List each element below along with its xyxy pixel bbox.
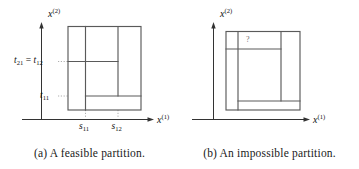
panel-impossible-partition: x(2) x(1) ? (b) An impossible partition. <box>180 0 359 169</box>
question-mark-marker: ? <box>246 36 250 44</box>
panel-feasible-partition: x(2) x(1) t21=t12 t11 s11 s12 (a) A feas… <box>0 0 179 169</box>
y-axis-label: x(2) <box>48 8 60 19</box>
x-axis-label: x(1) <box>157 114 169 125</box>
y-tick-label-t21-eq-t12: t21=t12 <box>14 56 43 66</box>
figure-container: x(2) x(1) t21=t12 t11 s11 s12 (a) A feas… <box>0 0 359 169</box>
panel-b-drawing <box>180 0 359 169</box>
panel-b-caption: (b) An impossible partition. <box>180 147 359 159</box>
x-tick-label-s12: s12 <box>112 122 122 132</box>
partition-cells <box>68 27 141 111</box>
y-tick-label-t11: t11 <box>40 91 49 101</box>
partition-cells <box>226 32 300 111</box>
y-axis <box>39 22 43 120</box>
panel-a-drawing <box>0 0 179 169</box>
y-axis-label: x(2) <box>220 8 232 19</box>
y-axis <box>211 22 215 120</box>
panel-a-caption: (a) A feasible partition. <box>0 147 179 159</box>
x-tick-label-s11: s11 <box>79 122 89 132</box>
equals-sign: = <box>23 55 33 65</box>
x-axis <box>192 117 310 121</box>
x-axis-label: x(1) <box>313 114 325 125</box>
